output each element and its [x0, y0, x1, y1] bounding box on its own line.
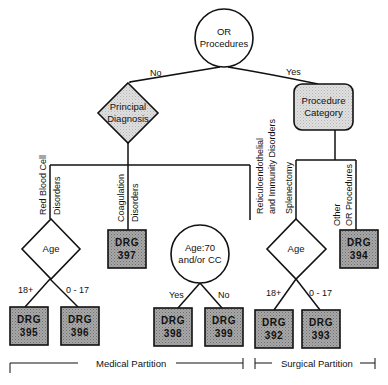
svg-text:396: 396 — [71, 327, 90, 338]
svg-text:OR Procedures: OR Procedures — [344, 163, 354, 226]
age-surgical-edge-18plus: 18+ — [266, 288, 281, 298]
medical-partition-label: Medical Partition — [96, 358, 166, 369]
drg-box-398: DRG 398 — [154, 308, 192, 346]
svg-text:DRG: DRG — [262, 317, 286, 328]
age-medical-label: Age — [43, 243, 60, 254]
branch-label-red-blood-cell: Red Blood Cell — [38, 155, 48, 215]
svg-text:DRG: DRG — [115, 237, 139, 248]
drg-box-397: DRG 397 — [108, 230, 146, 268]
edge-label-no: No — [150, 68, 162, 78]
svg-text:392: 392 — [265, 330, 284, 341]
svg-text:Disorders: Disorders — [130, 183, 140, 222]
svg-text:DRG: DRG — [68, 314, 92, 325]
drg-box-395: DRG 395 — [10, 307, 48, 345]
age-medical-edge-18plus: 18+ — [18, 285, 33, 295]
drg-box-393: DRG 393 — [302, 310, 340, 348]
svg-text:Coagulation: Coagulation — [116, 174, 126, 222]
node-or-procedures: OR Procedures — [195, 9, 253, 67]
node-age-surgical: Age — [267, 219, 326, 279]
age-cc-edge-no: No — [218, 290, 230, 300]
age-medical-edge-0-17: 0 - 17 — [66, 285, 89, 295]
age-surgical-edge-0-17: 0 - 17 — [309, 288, 332, 298]
svg-text:DRG: DRG — [309, 317, 333, 328]
svg-text:395: 395 — [20, 327, 39, 338]
branch-label-splenectomy: Splenectomy — [284, 161, 294, 214]
branch-label-other: Other — [332, 203, 342, 226]
drg-box-394: DRG 394 — [340, 230, 378, 268]
drg-box-396: DRG 396 — [61, 307, 99, 345]
svg-text:Disorders: Disorders — [52, 176, 62, 215]
drg-box-392: DRG 392 — [255, 310, 293, 348]
branch-label-reticuloendothelial: Reticuloendothelial — [255, 138, 265, 214]
principal-diagnosis-label-1: Principal — [110, 101, 146, 112]
svg-text:and Immunity Disorders: and Immunity Disorders — [267, 118, 277, 214]
svg-text:397: 397 — [118, 250, 137, 261]
principal-diagnosis-label-2: Diagnosis — [107, 113, 149, 124]
age-cc-edge-yes: Yes — [169, 290, 184, 300]
surgical-partition-bracket: Surgical Partition — [255, 358, 375, 369]
procedure-category-label-2: Category — [304, 107, 343, 118]
age-cc-label-2: and/or CC — [178, 254, 221, 265]
node-age-cc: Age:70 and/or CC — [171, 225, 229, 283]
node-procedure-category: Procedure Category — [294, 84, 353, 130]
edge-root-yes — [228, 67, 318, 84]
svg-text:398: 398 — [164, 328, 183, 339]
branch-label-red-blood-cell-2: Disorders — [52, 176, 62, 215]
age-cc-label-1: Age:70 — [185, 242, 215, 253]
svg-text:Other: Other — [332, 203, 342, 226]
age-surgical-label: Age — [288, 243, 305, 254]
svg-text:399: 399 — [215, 328, 234, 339]
or-procedures-label-2: Procedures — [200, 38, 249, 49]
edge-label-yes: Yes — [286, 67, 301, 77]
svg-text:DRG: DRG — [347, 237, 371, 248]
svg-text:Reticuloendothelial: Reticuloendothelial — [255, 138, 265, 214]
drg-box-399: DRG 399 — [205, 308, 243, 346]
or-procedures-label-1: OR — [217, 26, 231, 37]
svg-text:393: 393 — [312, 330, 331, 341]
surgical-partition-label: Surgical Partition — [281, 358, 353, 369]
svg-text:DRG: DRG — [17, 314, 41, 325]
svg-text:DRG: DRG — [212, 315, 236, 326]
branch-label-coagulation-2: Disorders — [130, 183, 140, 222]
drg-decision-tree: OR Procedures No Yes Principal Diagnosis… — [0, 0, 388, 385]
branch-label-other-or-procedures: OR Procedures — [344, 163, 354, 226]
branch-label-coagulation: Coagulation — [116, 174, 126, 222]
svg-text:DRG: DRG — [161, 315, 185, 326]
svg-text:Splenectomy: Splenectomy — [284, 161, 294, 214]
node-principal-diagnosis: Principal Diagnosis — [98, 83, 158, 143]
medical-partition-bracket: Medical Partition — [10, 358, 243, 373]
branch-label-reticuloendothelial-2: and Immunity Disorders — [267, 118, 277, 214]
svg-text:Red Blood Cell: Red Blood Cell — [38, 155, 48, 215]
node-age-medical: Age — [22, 219, 80, 279]
procedure-category-label-1: Procedure — [302, 95, 346, 106]
edge-root-no — [130, 67, 220, 83]
svg-text:394: 394 — [350, 250, 369, 261]
